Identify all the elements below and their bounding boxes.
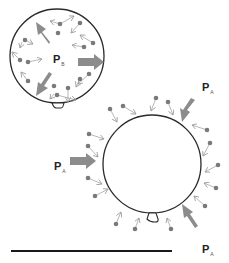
balloon-right-knot [147, 213, 158, 222]
label-sub: A [62, 168, 65, 174]
label-main: P [202, 81, 209, 93]
balloon-right-outline [103, 115, 201, 213]
label-main: P [53, 53, 60, 65]
balloon-left-knot [52, 103, 64, 108]
balloon-right [70, 96, 220, 232]
label-pressure-outside-bottom-right: PA [202, 244, 214, 257]
label-pressure-outside-top-right: PA [202, 82, 214, 95]
label-sub: A [210, 251, 213, 257]
label-pressure-inside: PB [53, 54, 65, 67]
label-sub: B [61, 61, 64, 67]
label-sub: A [210, 89, 213, 95]
balloon-pressure-diagram [0, 0, 229, 263]
label-pressure-outside-left: PA [54, 161, 66, 174]
label-main: P [54, 160, 61, 172]
label-main: P [202, 243, 209, 255]
